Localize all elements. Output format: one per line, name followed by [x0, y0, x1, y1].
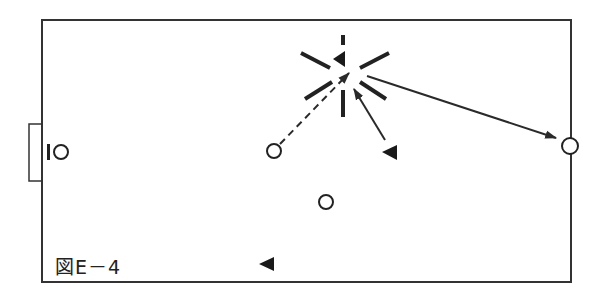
burst-line [301, 53, 330, 68]
circle-mid-left-icon [267, 144, 281, 158]
long-pass-arrow [367, 76, 556, 138]
triangle-right-icon [382, 145, 397, 160]
circle-players [267, 138, 578, 209]
dashed-pass-arrow [280, 73, 349, 144]
circle-right-edge-icon [562, 138, 578, 154]
goalkeeper [47, 144, 68, 160]
burst-line [360, 53, 389, 68]
circle-mid-low-icon [319, 195, 333, 209]
goal-box [29, 124, 42, 181]
triangle-burst-center-icon [333, 51, 345, 67]
goalkeeper-bar-icon [47, 144, 50, 160]
goalkeeper-circle-icon [54, 145, 68, 159]
burst-line [305, 82, 332, 99]
movement-arrows [280, 73, 556, 144]
figure-caption: 図E－4 [55, 255, 121, 279]
burst-line [360, 82, 386, 99]
burst-marker [301, 35, 389, 117]
field-boundary [42, 20, 571, 282]
triangle-bottom-icon [259, 257, 274, 271]
